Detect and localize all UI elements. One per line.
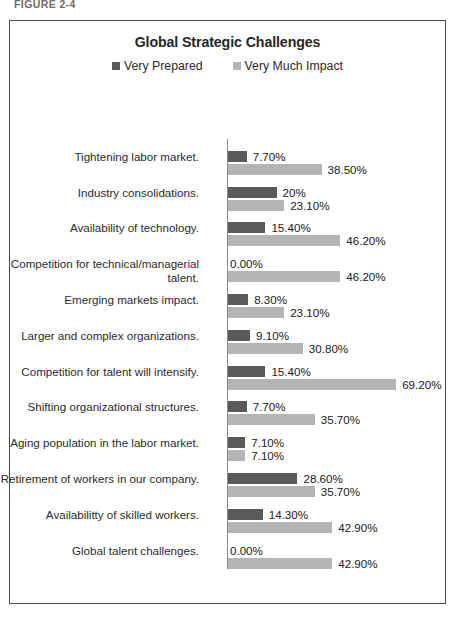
- bar-pair: 7.70%35.70%: [228, 401, 445, 425]
- bar-rect: [228, 414, 315, 425]
- bar-row: Retirement of workers in our company.28.…: [10, 467, 445, 503]
- bar-pair: 8.30%23.10%: [228, 294, 445, 318]
- bar-value-label: 30.80%: [309, 342, 348, 355]
- category-label: Tightening labor market.: [0, 150, 199, 163]
- bar-value-label: 28.60%: [303, 472, 342, 485]
- bar-value-label: 7.10%: [251, 436, 284, 449]
- bar-rect: [228, 222, 265, 233]
- category-label: Aging population in the labor market.: [0, 436, 199, 449]
- bar-pair: 0.00%42.90%: [228, 545, 445, 569]
- chart-legend: Very Prepared Very Much Impact: [10, 59, 445, 73]
- bar-very-prepared: 14.30%: [228, 509, 445, 520]
- bar-very-much-impact: 23.10%: [228, 200, 445, 211]
- bar-very-prepared: 15.40%: [228, 222, 445, 233]
- figure-caption: FIGURE 2-4: [14, 0, 76, 12]
- bar-value-label: 0.00%: [230, 257, 263, 270]
- bar-very-prepared: 20%: [228, 187, 445, 198]
- bar-value-label: 7.70%: [253, 150, 286, 163]
- legend-item-very-prepared: Very Prepared: [112, 59, 203, 73]
- bar-rect: [228, 366, 265, 377]
- bar-row: Aging population in the labor market.7.1…: [10, 431, 445, 467]
- category-label: Retirement of workers in our company.: [0, 472, 199, 485]
- bar-rect: [228, 486, 315, 497]
- bar-very-much-impact: 69.20%: [228, 379, 445, 390]
- bar-very-prepared: 0.00%: [228, 545, 445, 556]
- bar-value-label: 7.10%: [251, 449, 284, 462]
- bar-very-much-impact: 23.10%: [228, 307, 445, 318]
- bar-pair: 7.10%7.10%: [228, 437, 445, 461]
- plot-area: Tightening labor market.7.70%38.50%Indus…: [10, 139, 445, 579]
- bar-very-much-impact: 38.50%: [228, 164, 445, 175]
- category-label: Competition for technical/managerial tal…: [0, 257, 199, 284]
- bar-row: Competition for talent will intensify.15…: [10, 360, 445, 396]
- bar-rect: [228, 509, 263, 520]
- bar-very-prepared: 7.70%: [228, 401, 445, 412]
- bar-rect: [228, 164, 322, 175]
- bar-row: Shifting organizational structures.7.70%…: [10, 396, 445, 432]
- bar-rect: [228, 450, 245, 461]
- bar-rect: [228, 187, 277, 198]
- bar-very-much-impact: 7.10%: [228, 450, 445, 461]
- bar-value-label: 15.40%: [271, 221, 310, 234]
- bar-rect: [228, 200, 284, 211]
- bar-very-much-impact: 35.70%: [228, 414, 445, 425]
- bar-value-label: 42.90%: [338, 557, 377, 570]
- category-label: Industry consolidations.: [0, 186, 199, 199]
- bar-pair: 9.10%30.80%: [228, 330, 445, 354]
- category-label: Availabilitty of skilled workers.: [0, 508, 199, 521]
- legend-item-very-much-impact: Very Much Impact: [233, 59, 343, 73]
- bar-value-label: 46.20%: [346, 270, 385, 283]
- bar-rect: [228, 558, 332, 569]
- bar-row: Availabilitty of skilled workers.14.30%4…: [10, 503, 445, 539]
- bar-rect: [228, 437, 245, 448]
- bar-rect: [228, 379, 396, 390]
- bar-very-much-impact: 46.20%: [228, 271, 445, 282]
- bar-pair: 28.60%35.70%: [228, 473, 445, 497]
- chart-title: Global Strategic Challenges: [10, 34, 445, 50]
- bar-rect: [228, 151, 247, 162]
- bar-value-label: 8.30%: [254, 293, 287, 306]
- bar-pair: 7.70%38.50%: [228, 151, 445, 175]
- chart-frame: Global Strategic Challenges Very Prepare…: [9, 20, 446, 604]
- bar-rect: [228, 294, 248, 305]
- bar-very-prepared: 8.30%: [228, 294, 445, 305]
- bar-row: Tightening labor market.7.70%38.50%: [10, 145, 445, 181]
- bar-pair: 0.00%46.20%: [228, 258, 445, 282]
- bar-row: Competition for technical/managerial tal…: [10, 252, 445, 288]
- bar-very-much-impact: 46.20%: [228, 235, 445, 246]
- bar-rect: [228, 271, 340, 282]
- bar-value-label: 35.70%: [321, 485, 360, 498]
- bar-rect: [228, 343, 303, 354]
- category-label: Competition for talent will intensify.: [0, 365, 199, 378]
- bar-pair: 15.40%46.20%: [228, 222, 445, 246]
- bar-value-label: 46.20%: [346, 234, 385, 247]
- bar-rect: [228, 473, 297, 484]
- bar-value-label: 15.40%: [271, 365, 310, 378]
- bar-row: Emerging markets impact.8.30%23.10%: [10, 288, 445, 324]
- bar-rect: [228, 330, 250, 341]
- bar-rect: [228, 307, 284, 318]
- legend-label: Very Much Impact: [245, 59, 343, 73]
- bar-very-much-impact: 42.90%: [228, 522, 445, 533]
- bar-row: Industry consolidations.20%23.10%: [10, 181, 445, 217]
- bar-rect: [228, 522, 332, 533]
- bar-pair: 14.30%42.90%: [228, 509, 445, 533]
- bar-pair: 20%23.10%: [228, 187, 445, 211]
- legend-swatch-icon: [112, 62, 120, 70]
- category-label: Shifting organizational structures.: [0, 400, 199, 413]
- bar-very-prepared: 0.00%: [228, 258, 445, 269]
- category-label: Larger and complex organizations.: [0, 329, 199, 342]
- bar-very-prepared: 7.10%: [228, 437, 445, 448]
- bar-very-prepared: 7.70%: [228, 151, 445, 162]
- bar-rect: [228, 235, 340, 246]
- bar-value-label: 14.30%: [269, 508, 308, 521]
- bar-very-much-impact: 42.90%: [228, 558, 445, 569]
- bar-very-much-impact: 30.80%: [228, 343, 445, 354]
- bar-value-label: 35.70%: [321, 413, 360, 426]
- category-label: Emerging markets impact.: [0, 293, 199, 306]
- bar-value-label: 23.10%: [290, 306, 329, 319]
- bar-very-prepared: 15.40%: [228, 366, 445, 377]
- bar-value-label: 23.10%: [290, 199, 329, 212]
- bar-very-prepared: 9.10%: [228, 330, 445, 341]
- bar-rect: [228, 401, 247, 412]
